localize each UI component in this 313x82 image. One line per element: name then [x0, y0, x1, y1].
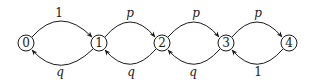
edge-2-1 — [105, 49, 156, 64]
edge-1-2 — [105, 22, 155, 37]
edge-0-1-label: 1 — [55, 7, 63, 19]
edge-2-3-label: p — [192, 7, 200, 19]
markov-chain-diagram: 0 1 2 3 4 1 p p p q q q 1 — [0, 0, 313, 82]
diagram-canvas — [0, 0, 313, 82]
edge-3-4 — [232, 22, 282, 37]
node-3-label: 3 — [222, 37, 230, 49]
node-0-label: 0 — [22, 37, 30, 49]
edge-3-2-label: q — [189, 66, 197, 78]
edge-1-0-label: q — [56, 66, 64, 78]
node-4-label: 4 — [285, 37, 293, 49]
node-2-label: 2 — [158, 37, 166, 49]
edge-0-1 — [32, 21, 92, 37]
edge-4-3-label: 1 — [254, 66, 262, 78]
edge-3-4-label: p — [254, 7, 262, 19]
edge-3-2 — [168, 49, 220, 64]
edge-2-1-label: q — [127, 66, 135, 78]
edge-1-2-label: p — [126, 7, 134, 19]
edge-4-3 — [232, 49, 283, 64]
node-1-label: 1 — [95, 37, 103, 49]
edge-1-0 — [32, 49, 93, 65]
edge-2-3 — [168, 22, 219, 37]
